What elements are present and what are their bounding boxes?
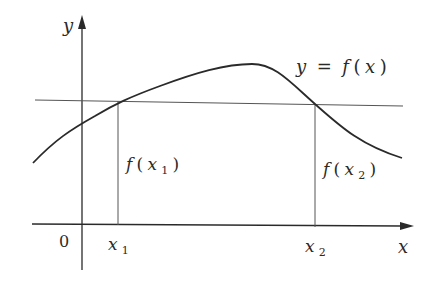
f-x2-label-close: ) [370, 159, 377, 179]
x1-label: x 1 [108, 234, 129, 257]
x-axis [32, 224, 402, 226]
x-axis-arrow-icon [400, 222, 414, 230]
function-graph-diagram: y x 0 y = f ( x ) f ( x 1 ) f ( x 2 ) x … [0, 0, 433, 289]
f-x2-label-open: ( [334, 159, 341, 179]
x2-label: x 2 [305, 236, 326, 259]
curve-label-f: f [340, 56, 352, 77]
f-x1-label-sub: 1 [161, 164, 168, 177]
x2-label-base: x [305, 236, 315, 256]
horizontal-level-line [35, 100, 403, 106]
y-axis-arrow-icon [78, 15, 86, 29]
f-x2-label: f ( x 2 ) [321, 159, 376, 183]
y-axis-label: y [62, 15, 74, 36]
function-curve [33, 64, 402, 163]
f-x2-label-x: x [344, 159, 354, 179]
f-x2-label-f: f [321, 159, 332, 179]
curve-label-y: y [295, 56, 307, 77]
curve-label-equals: = [317, 56, 332, 77]
x1-label-base: x [108, 234, 118, 254]
f-x1-label-f: f [124, 154, 135, 174]
f-x1-label: f ( x 1 ) [124, 154, 179, 178]
x2-label-sub: 2 [319, 246, 326, 259]
f-x1-label-x: x [147, 154, 157, 174]
curve-label-x: x [365, 56, 375, 77]
x-axis-label: x [398, 236, 408, 257]
curve-label-open-paren: ( [353, 56, 360, 77]
origin-label: 0 [59, 232, 69, 251]
f-x2-label-sub: 2 [358, 169, 365, 182]
curve-label: y = f ( x ) [295, 56, 387, 77]
x1-label-sub: 1 [122, 244, 129, 257]
f-x1-label-open: ( [137, 154, 144, 174]
f-x1-label-close: ) [173, 154, 180, 174]
curve-label-close-paren: ) [380, 56, 387, 77]
